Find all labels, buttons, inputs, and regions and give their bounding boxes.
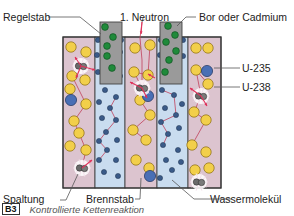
boron-atom: [172, 32, 179, 39]
water-molecule: [175, 147, 180, 152]
u235-atom: [144, 170, 155, 181]
u238-atom: [143, 70, 153, 80]
boron-atom: [166, 57, 173, 64]
water-molecule: [104, 147, 109, 152]
u238-atom: [66, 42, 76, 52]
u238-atom: [204, 163, 214, 173]
water-molecule: [169, 167, 174, 172]
u238-atom: [128, 125, 138, 135]
label-u235: U-235: [242, 62, 271, 74]
fission-fragment: [198, 179, 204, 185]
figure-caption: B3 Kontrollierte Kettenreaktion: [2, 203, 144, 215]
water-molecule: [159, 87, 164, 92]
u238-atom: [141, 135, 151, 145]
control-rod: [100, 22, 122, 84]
label-water-molecule: Wassermolekül: [210, 193, 281, 205]
boron-atom: [109, 65, 116, 72]
water-molecule: [157, 175, 162, 180]
label-u238: U-238: [242, 81, 271, 93]
water-molecule: [94, 52, 99, 57]
water-molecule: [113, 117, 118, 122]
chain-reaction-diagram: [0, 0, 294, 216]
u238-atom: [74, 128, 84, 138]
u238-atom: [81, 47, 91, 57]
water-molecule: [178, 159, 183, 164]
water-molecule: [103, 129, 108, 134]
label-first-neutron: 1. Neutron: [120, 11, 169, 23]
u238-atom: [129, 67, 139, 77]
water-molecule: [163, 157, 168, 162]
water-molecule: [171, 92, 176, 97]
boron-atom: [110, 34, 117, 41]
water-molecule: [115, 173, 120, 178]
water-molecule: [173, 112, 178, 117]
u238-atom: [191, 43, 201, 53]
u238-atom: [65, 84, 75, 94]
water-molecule: [96, 138, 101, 143]
u238-atom: [145, 40, 155, 50]
water-molecule: [96, 99, 101, 104]
boron-atom: [173, 48, 180, 55]
u238-atom: [80, 75, 90, 85]
u238-atom: [203, 43, 213, 53]
u238-atom: [69, 116, 79, 126]
u238-atom: [65, 141, 75, 151]
u235-atom: [65, 94, 76, 105]
caption-text: Kontrollierte Kettenreaktion: [30, 204, 145, 215]
u238-atom: [131, 155, 141, 165]
boron-atom: [104, 53, 111, 60]
u238-atom: [201, 147, 211, 157]
boron-atom: [162, 69, 169, 76]
water-molecule: [114, 137, 119, 142]
water-molecule: [179, 101, 184, 106]
u238-atom: [189, 107, 199, 117]
water-molecule: [107, 105, 112, 110]
water-molecule: [162, 105, 167, 110]
u238-atom: [67, 71, 77, 81]
u238-atom: [203, 79, 213, 89]
boron-atom: [165, 23, 172, 30]
figure-number-badge: B3: [2, 203, 20, 215]
water-molecule: [113, 94, 118, 99]
water-molecule: [165, 131, 170, 136]
water-molecule: [101, 169, 106, 174]
u235-atom: [201, 65, 212, 76]
water-molecule: [113, 157, 118, 162]
u238-atom: [145, 110, 155, 120]
leader-control-rod: [48, 17, 101, 34]
u238-atom: [191, 65, 201, 75]
u238-atom: [130, 43, 140, 53]
water-molecule: [176, 125, 181, 130]
label-control-rod: Regelstab: [3, 11, 50, 23]
water-molecule: [96, 157, 101, 162]
water-molecule: [160, 142, 165, 147]
water-molecule: [102, 87, 107, 92]
boron-atom: [102, 24, 109, 31]
boron-atom: [104, 43, 111, 50]
water-molecule: [158, 119, 163, 124]
water-molecule: [99, 115, 104, 120]
u238-atom: [81, 145, 91, 155]
u238-atom: [81, 99, 91, 109]
u238-atom: [190, 165, 200, 175]
u238-atom: [187, 140, 197, 150]
label-absorber: Bor oder Cadmium: [199, 11, 287, 23]
boron-atom: [163, 39, 170, 46]
u238-atom: [201, 115, 211, 125]
